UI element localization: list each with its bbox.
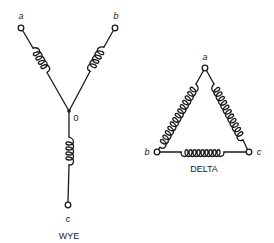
inductor-coil-ac [210,83,246,142]
inductor-coil-ab [157,83,200,150]
delta-side-ac [207,71,248,150]
wye-arm-a [23,31,69,111]
delta-label-a: a [202,52,207,62]
wye-delta-diagram: a b 0 c WYE [0,0,274,243]
inductor-coil-b [86,45,106,73]
wye-label-b: b [113,11,118,21]
wye-terminal-c [65,202,71,208]
wye-terminal-a [18,25,24,31]
delta-connection: a b c DELTA [144,52,261,174]
wye-connection: a b 0 c WYE [18,11,118,241]
delta-side-bc [160,150,246,157]
inductor-coil-c [66,137,74,165]
delta-caption: DELTA [190,164,218,174]
wye-label-a: a [18,11,23,21]
wye-arm-b [69,31,113,111]
wye-label-c: c [66,214,71,224]
delta-vertex-b [154,149,160,155]
wye-label-neutral: 0 [73,113,78,123]
inductor-coil-a [30,46,51,74]
delta-vertex-a [202,65,208,71]
inductor-coil-bc [181,150,224,157]
delta-label-b: b [144,147,149,157]
wye-arm-c [66,111,74,202]
wye-terminal-b [112,25,118,31]
delta-side-ab [157,71,203,150]
delta-label-c: c [257,147,262,157]
wye-neutral-node [67,109,71,113]
wye-caption: WYE [59,231,80,241]
delta-vertex-c [246,149,252,155]
